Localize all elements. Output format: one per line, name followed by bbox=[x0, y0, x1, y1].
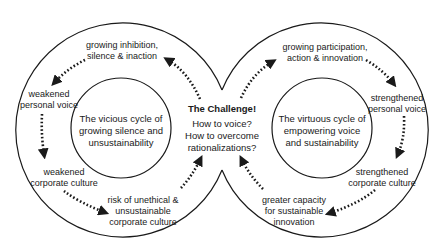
arrow-challenge-to-inhibition bbox=[168, 60, 200, 99]
vicious-core-label: The vicious cycle of bbox=[80, 113, 163, 125]
step-growing-inhibition: silence & inaction bbox=[87, 51, 157, 62]
step-risk-unethical: unsustainable bbox=[115, 206, 171, 217]
step-weakened-corporate-culture: corporate culture bbox=[30, 178, 98, 189]
arrow-capacity-to-challenge bbox=[242, 160, 263, 189]
step-growing-participation: action & innovation bbox=[287, 53, 363, 64]
virtuous-core-label: empowering voice bbox=[284, 125, 361, 137]
step-risk-unethical: risk of unethical & bbox=[107, 195, 178, 206]
arrow-inhibition-to-weakened-voice bbox=[55, 60, 85, 82]
step-strengthened-corporate-culture: strengthened bbox=[356, 167, 409, 178]
arrow-weakened-culture-to-risk bbox=[64, 191, 104, 212]
challenge-title: The Challenge! bbox=[188, 103, 256, 114]
step-greater-capacity: greater capacity bbox=[262, 195, 326, 206]
arrow-strengthened-voice-to-strengthened-culture bbox=[398, 116, 404, 154]
challenge-question: How to overcome bbox=[185, 130, 259, 142]
step-growing-participation: growing participation, bbox=[282, 42, 367, 53]
step-weakened-personal-voice: personal voice bbox=[20, 100, 78, 111]
step-strengthened-personal-voice: personal voice bbox=[368, 104, 426, 115]
step-strengthened-personal-voice: strengthened bbox=[371, 93, 424, 104]
arrow-participation-to-strengthened-voice bbox=[366, 60, 393, 83]
virtuous-core-label: and sustainability bbox=[286, 137, 359, 149]
step-weakened-personal-voice: weakened bbox=[28, 89, 69, 100]
arrow-strengthened-culture-to-capacity bbox=[330, 190, 375, 213]
virtuous-core-label: The virtuous cycle of bbox=[278, 113, 365, 125]
step-strengthened-corporate-culture: corporate culture bbox=[348, 178, 416, 189]
challenge-question: rationalizations? bbox=[188, 142, 257, 154]
step-greater-capacity: for sustainable bbox=[265, 206, 324, 217]
step-weakened-corporate-culture: weakened bbox=[43, 167, 84, 178]
arrow-challenge-to-participation bbox=[241, 62, 272, 98]
arrow-weakened-voice-to-weakened-culture bbox=[42, 114, 44, 154]
step-growing-inhibition: growing inhibition, bbox=[86, 40, 158, 51]
challenge-question: How to voice? bbox=[192, 118, 252, 130]
arrow-risk-to-challenge bbox=[181, 160, 200, 188]
vicious-core-label: unsustainability bbox=[89, 137, 154, 149]
step-risk-unethical: corporate culture bbox=[109, 217, 177, 228]
step-greater-capacity: innovation bbox=[273, 217, 314, 228]
vicious-core-label: growing silence and bbox=[79, 125, 163, 137]
